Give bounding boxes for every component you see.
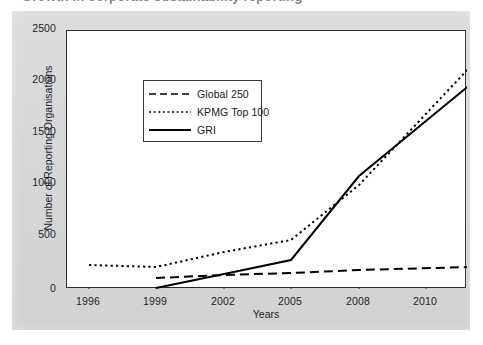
x-tick-label-2005: 2005 <box>267 295 313 307</box>
plot-area: Global 250 KPMG Top 100 <box>66 30 466 288</box>
y-tick-label-0: 0 <box>10 282 56 294</box>
legend-label-global-250: Global 250 <box>197 88 249 100</box>
legend-label-kpmg-top-100: KPMG Top 100 <box>197 106 269 118</box>
y-axis-label: Number of Reporting Organisations <box>42 33 54 263</box>
legend-swatch-solid-icon <box>149 125 191 135</box>
plot-svg <box>67 31 467 289</box>
figure-title-cropped: Growth in corporate sustainability repor… <box>0 0 483 10</box>
chart-legend: Global 250 KPMG Top 100 <box>143 80 262 142</box>
x-tick-label-2002: 2002 <box>200 295 246 307</box>
legend-item-kpmg-top-100: KPMG Top 100 <box>144 103 261 121</box>
x-tick-label-2010: 2010 <box>402 295 448 307</box>
figure-title-text: Growth in corporate sustainability repor… <box>22 0 302 4</box>
x-tick-label-2008: 2008 <box>335 295 381 307</box>
x-axis-ticks <box>89 288 426 289</box>
chart-card: 2500 2000 1500 1000 500 0 1996 1999 2002… <box>12 11 470 330</box>
legend-swatch-dotted-icon <box>149 107 191 117</box>
x-tick-label-1999: 1999 <box>132 295 178 307</box>
legend-item-gri: GRI <box>144 121 261 139</box>
x-axis-label: Years <box>66 308 466 320</box>
legend-item-global-250: Global 250 <box>144 85 261 103</box>
series-line-global-250 <box>156 267 467 278</box>
legend-swatch-dashed-icon <box>149 89 191 99</box>
figure: Growth in corporate sustainability repor… <box>0 0 483 345</box>
x-tick-label-1996: 1996 <box>65 295 111 307</box>
legend-label-gri: GRI <box>197 124 216 136</box>
